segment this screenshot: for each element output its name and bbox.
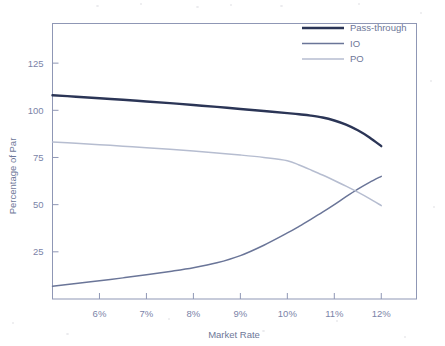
series-line-pass-through <box>53 95 382 146</box>
series-line-po <box>53 142 382 206</box>
x-tick-label-11%: 11% <box>325 308 344 319</box>
line-chart: 255075100125 6%7%8%9%10%11%12% Market Ra… <box>0 0 445 346</box>
x-axis-tick-labels: 6%7%8%9%10%11%12% <box>93 308 392 319</box>
y-axis-tick-labels: 255075100125 <box>28 58 44 258</box>
x-axis-ticks <box>99 293 381 299</box>
chart-legend: Pass-throughIOPO <box>302 22 407 64</box>
x-tick-label-8%: 8% <box>187 308 201 319</box>
x-tick-label-7%: 7% <box>140 308 154 319</box>
y-axis-ticks <box>53 63 59 252</box>
y-axis-title: Percentage of Par <box>7 138 18 215</box>
y-tick-label-75: 75 <box>33 152 44 163</box>
y-tick-label-100: 100 <box>28 105 44 116</box>
y-tick-label-125: 125 <box>28 58 44 69</box>
data-series-group <box>53 95 382 286</box>
legend-label-io: IO <box>350 38 360 49</box>
y-tick-label-50: 50 <box>33 199 44 210</box>
legend-label-pass-through: Pass-through <box>350 22 407 33</box>
chart-figure: 255075100125 6%7%8%9%10%11%12% Market Ra… <box>0 0 445 346</box>
y-tick-label-25: 25 <box>33 246 44 257</box>
legend-label-po: PO <box>350 53 364 64</box>
x-tick-label-9%: 9% <box>234 308 248 319</box>
series-line-io <box>53 176 382 286</box>
x-tick-label-6%: 6% <box>93 308 107 319</box>
x-tick-label-10%: 10% <box>278 308 298 319</box>
x-tick-label-12%: 12% <box>372 308 392 319</box>
x-axis-title: Market Rate <box>208 329 260 340</box>
